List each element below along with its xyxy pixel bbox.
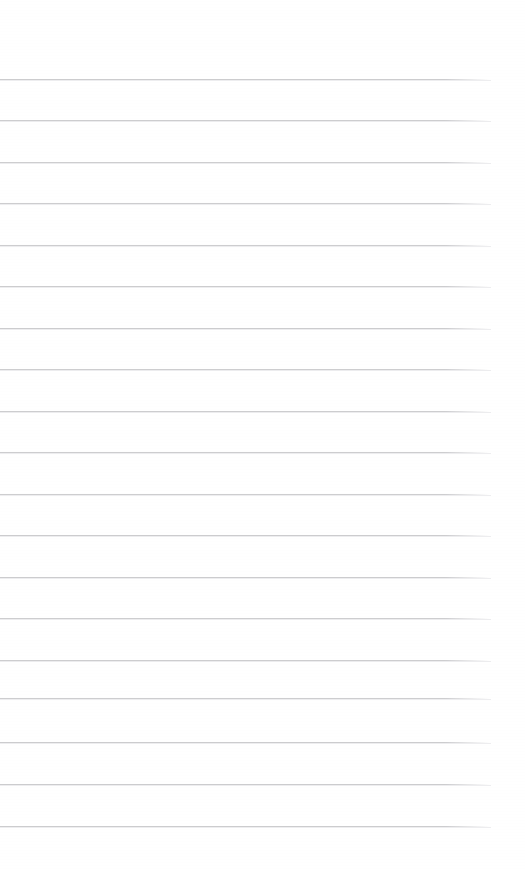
rule-line <box>0 286 491 287</box>
rule-line <box>0 120 491 121</box>
rule-line <box>0 742 491 743</box>
rule-line <box>0 203 491 204</box>
rule-line <box>0 369 491 370</box>
rule-line <box>0 452 491 453</box>
rule-line <box>0 826 491 827</box>
rule-line <box>0 577 491 578</box>
rule-line <box>0 245 491 246</box>
rule-line <box>0 784 491 785</box>
scanned-page <box>0 0 525 869</box>
rule-line <box>0 660 491 661</box>
rule-line <box>0 535 491 536</box>
rule-line <box>0 698 491 699</box>
ruled-lines-layer <box>0 0 525 869</box>
rule-line <box>0 618 491 619</box>
rule-line <box>0 494 491 495</box>
rule-line <box>0 162 491 163</box>
rule-line <box>0 79 491 80</box>
rule-line <box>0 328 491 329</box>
rule-line <box>0 411 491 412</box>
